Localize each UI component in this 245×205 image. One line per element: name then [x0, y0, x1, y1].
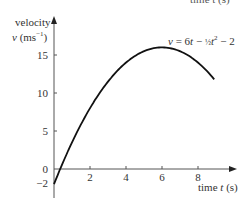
y-axis-label-line1: velocity [15, 17, 50, 28]
x-axis-arrow-icon [229, 166, 237, 172]
x-axis-label: time t (s) [198, 182, 238, 193]
x-tick-label: 4 [119, 172, 133, 183]
y-tick-label: 0 [28, 164, 48, 175]
x-tick-label: 2 [83, 172, 97, 183]
x-tick-label: 6 [155, 172, 169, 183]
y-tick-label: 10 [28, 88, 48, 99]
y-axis-label-line2: v (ms−1) [12, 31, 47, 43]
y-tick-label: 5 [28, 126, 48, 137]
y-tick-label: −2 [28, 178, 48, 189]
y-tick-label: 15 [28, 50, 48, 61]
curve-equation-annotation: v = 6t − ½t2 − 2 [168, 35, 235, 47]
y-axis-arrow-icon [51, 16, 57, 24]
velocity-curve [54, 47, 214, 184]
